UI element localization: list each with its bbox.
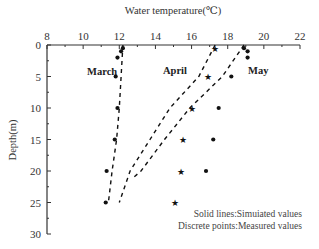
measured-point-april: ★ xyxy=(204,72,212,82)
measured-point-may xyxy=(204,169,208,173)
measured-point-may xyxy=(245,56,249,60)
measured-point-may xyxy=(245,49,249,53)
measured-point-april: ★ xyxy=(177,167,185,177)
measured-point-april: ★ xyxy=(188,104,196,114)
measured-point-may xyxy=(211,137,215,141)
x-tick-label: 14 xyxy=(150,30,162,42)
measured-point-may xyxy=(229,74,233,78)
series-label-march: March xyxy=(87,66,117,77)
y-tick-label: 20 xyxy=(30,165,42,177)
x-tick-label: 22 xyxy=(295,30,306,42)
x-tick-label: 10 xyxy=(78,30,90,42)
depth-temperature-chart: Water temperature(℃) Depth(m) 8101214161… xyxy=(0,0,319,249)
y-axis-title: Depth(m) xyxy=(7,119,19,160)
measured-point-march xyxy=(119,49,123,53)
legend-note-simulated: Solid lines:Simuiated values xyxy=(194,209,302,219)
measured-point-march xyxy=(104,200,108,204)
y-tick-label: 0 xyxy=(36,39,42,51)
y-tick-label: 10 xyxy=(30,102,42,114)
y-tick-label: 30 xyxy=(30,228,42,240)
x-tick-label: 12 xyxy=(114,30,125,42)
y-tick-label: 15 xyxy=(30,134,42,146)
x-tick-label: 8 xyxy=(44,30,50,42)
x-tick-label: 20 xyxy=(258,30,270,42)
y-tick-label: 5 xyxy=(36,71,42,83)
series-label-may: May xyxy=(248,65,269,76)
measured-point-april: ★ xyxy=(211,44,219,54)
x-axis-title: Water temperature(℃) xyxy=(125,5,222,17)
y-tick-label: 25 xyxy=(30,197,42,209)
measured-point-march xyxy=(115,56,119,60)
measured-point-may xyxy=(242,46,246,50)
series-label-april: April xyxy=(163,65,187,76)
legend-note-measured: Discrete points:Measured values xyxy=(178,221,302,231)
x-tick-label: 18 xyxy=(222,30,234,42)
measured-point-march xyxy=(113,137,117,141)
measured-point-may xyxy=(217,106,221,110)
measured-point-march xyxy=(105,169,109,173)
measured-point-march xyxy=(115,106,119,110)
x-tick-label: 16 xyxy=(186,30,198,42)
measured-point-april: ★ xyxy=(179,135,187,145)
measured-point-april: ★ xyxy=(171,198,179,208)
